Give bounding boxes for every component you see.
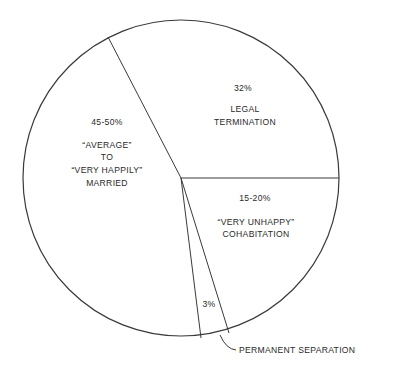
separation-pct: 3%: [202, 299, 215, 309]
legal-pct: 32%: [234, 83, 252, 93]
married-line2: TO: [101, 152, 113, 162]
pie-chart: 32% LEGAL TERMINATION 15-20% “VERY UNHAP…: [0, 0, 395, 373]
married-line1: “AVERAGE”: [82, 140, 131, 150]
legal-line2: TERMINATION: [214, 117, 276, 127]
married-pct: 45-50%: [91, 117, 122, 127]
separation-leader-line: [220, 335, 236, 350]
legal-line1: LEGAL: [230, 104, 259, 114]
married-line3: “VERY HAPPILY”: [71, 165, 142, 175]
married-line4: MARRIED: [86, 178, 128, 188]
unhappy-pct: 15-20%: [239, 193, 270, 203]
unhappy-line2: COHABITATION: [223, 229, 290, 239]
unhappy-line1: “VERY UNHAPPY”: [218, 217, 295, 227]
separation-callout: PERMANENT SEPARATION: [239, 345, 355, 355]
